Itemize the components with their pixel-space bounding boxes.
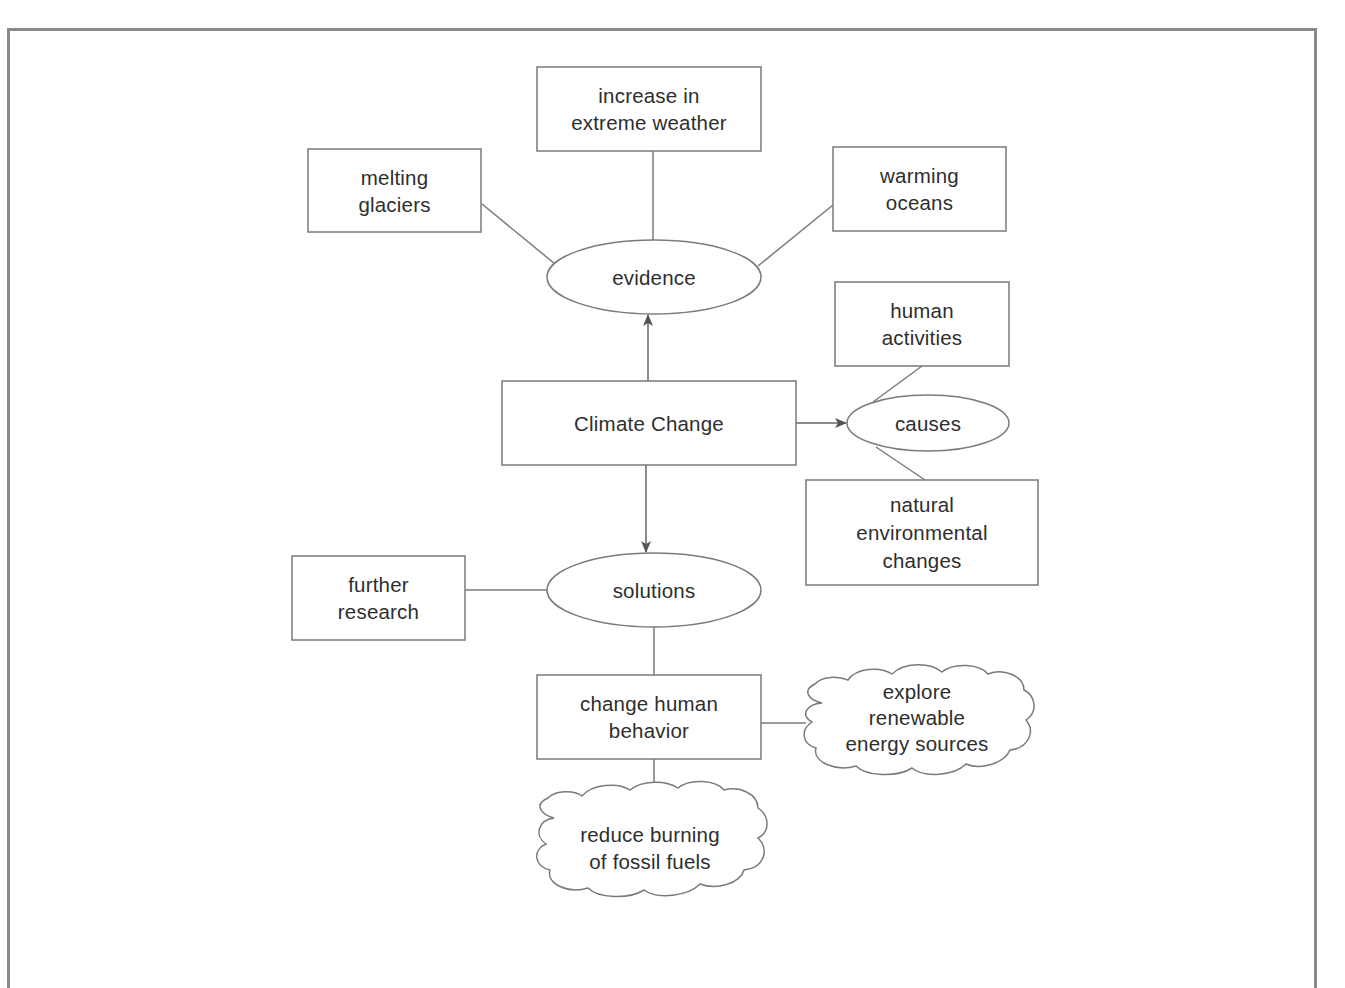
label-evidence: evidence: [547, 240, 761, 314]
edge-causes-natural: [876, 447, 925, 480]
label-human-activities: human activities: [835, 282, 1009, 366]
label-extreme-weather: increase in extreme weather: [537, 67, 761, 151]
edge-evidence-glaciers: [482, 204, 555, 264]
label-warming-oceans: warming oceans: [833, 147, 1006, 231]
edge-evidence-oceans: [758, 205, 833, 266]
label-solutions: solutions: [547, 553, 761, 627]
label-melting-glaciers: melting glaciers: [308, 149, 481, 232]
label-further-research: further research: [292, 556, 465, 640]
label-renewable-energy: explore renewable energy sources: [812, 678, 1022, 758]
label-natural-changes: natural environmental changes: [806, 480, 1038, 585]
label-climate-change: Climate Change: [502, 381, 796, 465]
label-fossil-fuels: reduce burning of fossil fuels: [545, 808, 755, 888]
label-causes: causes: [847, 395, 1009, 451]
label-change-behavior: change human behavior: [537, 675, 761, 759]
